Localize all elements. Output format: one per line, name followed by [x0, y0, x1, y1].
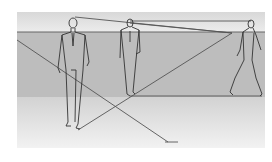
sky-band	[17, 12, 265, 32]
perspective-illustration	[0, 0, 272, 162]
ground-near-band	[17, 97, 265, 148]
ground-mid-band	[17, 32, 265, 97]
